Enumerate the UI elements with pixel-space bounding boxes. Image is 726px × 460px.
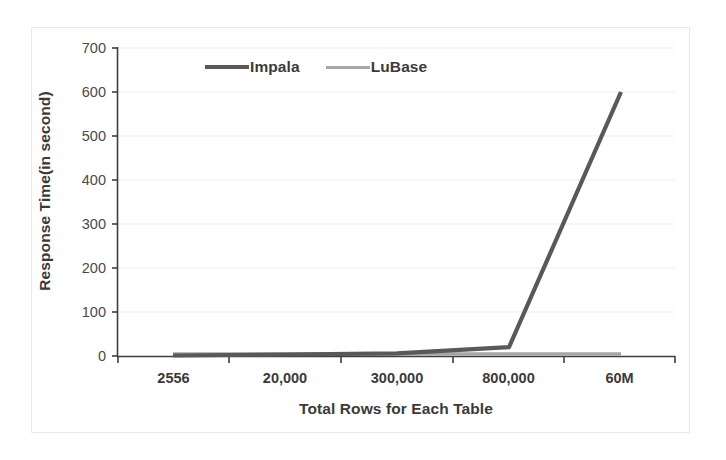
x-axis-title: Total Rows for Each Table: [117, 400, 675, 418]
y-tick-label-100: 100: [60, 304, 106, 320]
y-tick-label-200: 200: [60, 260, 106, 276]
y-tick-label-500: 500: [60, 128, 106, 144]
legend-label-lubase: LuBase: [371, 58, 428, 76]
chart-screenshot: 700 600 500 400 300 200 100 0 2556 20,00…: [0, 0, 726, 460]
y-axis-title: Response Time(in second): [36, 51, 54, 331]
x-tick-label-2556: 2556: [118, 370, 229, 386]
y-tick-label-300: 300: [60, 216, 106, 232]
x-tick-label-300000: 300,000: [341, 370, 453, 386]
y-tick-label-0: 0: [60, 348, 106, 364]
x-tick-label-800000: 800,000: [453, 370, 564, 386]
chart-legend: Impala LuBase: [205, 58, 427, 76]
gridlines: [118, 48, 675, 312]
y-tick-label-700: 700: [60, 40, 106, 56]
y-tick-label-400: 400: [60, 172, 106, 188]
x-tick-label-60m: 60M: [564, 370, 675, 386]
legend-entry-impala: Impala: [205, 58, 300, 76]
legend-entry-lubase: LuBase: [326, 58, 428, 76]
x-tick-label-20000: 20,000: [229, 370, 341, 386]
legend-swatch-lubase-icon: [326, 66, 370, 69]
y-tick-label-600: 600: [60, 84, 106, 100]
legend-swatch-impala-icon: [205, 65, 249, 69]
legend-label-impala: Impala: [250, 58, 300, 76]
